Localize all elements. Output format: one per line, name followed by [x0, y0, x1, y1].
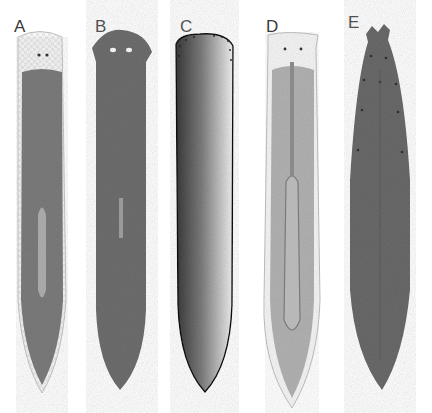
worm-b: [92, 30, 152, 390]
worm-a: [18, 32, 66, 394]
worm-illustrations: [0, 0, 432, 413]
planarian-figure: A B C D E: [0, 0, 432, 413]
worm-e: [350, 24, 410, 390]
worm-c: [176, 34, 233, 392]
worm-d: [264, 33, 320, 409]
